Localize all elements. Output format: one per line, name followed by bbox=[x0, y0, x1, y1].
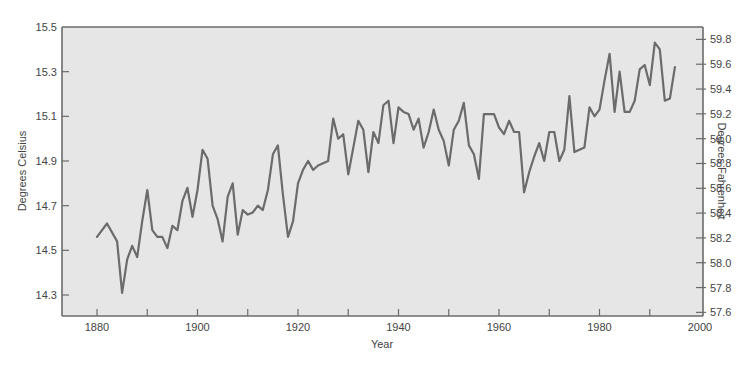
y-tick-label: 14.3 bbox=[36, 289, 57, 301]
y-tick-label: 15.5 bbox=[36, 21, 57, 33]
y-tick-label: 14.9 bbox=[36, 155, 57, 167]
y-right-tick-label: 59.6 bbox=[710, 58, 731, 70]
y-right-tick-label: 58.2 bbox=[710, 232, 731, 244]
x-tick-label: 1880 bbox=[85, 321, 109, 333]
y-right-tick-label: 59.8 bbox=[710, 33, 731, 45]
y-right-tick-label: 58.0 bbox=[710, 257, 731, 269]
right-axis-title: Degrees Fahrenheit bbox=[716, 122, 728, 219]
x-tick-label: 1920 bbox=[286, 321, 310, 333]
y-tick-label: 14.7 bbox=[36, 200, 57, 212]
x-tick-label: 2000 bbox=[688, 321, 712, 333]
temperature-line-chart: 14.314.514.714.915.115.315.5 57.657.858.… bbox=[0, 0, 744, 369]
y-right-tick-label: 59.4 bbox=[710, 83, 731, 95]
y-right-tick-label: 59.2 bbox=[710, 108, 731, 120]
x-tick-label: 1980 bbox=[587, 321, 611, 333]
x-tick-label: 1960 bbox=[487, 321, 511, 333]
x-tick-label: 1940 bbox=[386, 321, 410, 333]
y-tick-label: 14.5 bbox=[36, 244, 57, 256]
y-tick-label: 15.1 bbox=[36, 110, 57, 122]
x-axis-title: Year bbox=[371, 338, 394, 350]
y-right-tick-label: 57.6 bbox=[710, 306, 731, 318]
x-tick-label: 1900 bbox=[185, 321, 209, 333]
y-tick-label: 15.3 bbox=[36, 66, 57, 78]
left-axis-title: Degrees Celsius bbox=[16, 130, 28, 211]
y-right-tick-label: 57.8 bbox=[710, 282, 731, 294]
